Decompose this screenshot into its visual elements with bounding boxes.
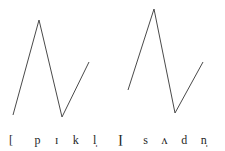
- pitch-contour-svg-pickle: [0, 0, 113, 125]
- segment-sudden-2: ʌ: [155, 133, 175, 147]
- open-bracket-pickle: [: [9, 133, 27, 147]
- figure-root: [ p ɪ k l̩ ] [ s ʌ d n̩ ]: [0, 0, 225, 151]
- segment-pickle-1: p: [27, 133, 47, 147]
- transcription-sudden: [ s ʌ d n̩ ]: [113, 133, 225, 147]
- pitch-contour-panel-sudden: [ s ʌ d n̩ ]: [113, 0, 225, 151]
- segment-sudden-3: d: [174, 133, 194, 147]
- segment-pickle-4: l̩: [86, 133, 104, 147]
- close-bracket-sudden: ]: [213, 133, 225, 147]
- pitch-contour-svg-sudden: [113, 0, 225, 125]
- segment-pickle-2: ɪ: [48, 133, 66, 147]
- pitch-contour-panel-pickle: [ p ɪ k l̩ ]: [0, 0, 113, 151]
- segment-sudden-4: n̩: [194, 133, 214, 147]
- pitch-contour-line-sudden: [128, 9, 203, 113]
- pitch-contour-line-pickle: [13, 20, 89, 117]
- segment-pickle-3: k: [66, 133, 86, 147]
- open-bracket-sudden: [: [119, 133, 137, 147]
- segment-sudden-1: s: [137, 133, 155, 147]
